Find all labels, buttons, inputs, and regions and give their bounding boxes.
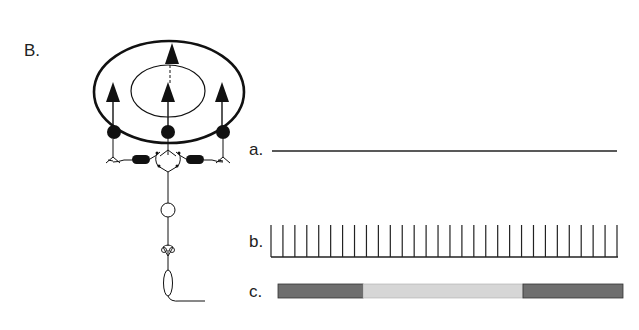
figure-canvas	[0, 0, 639, 330]
photoreceptor-center	[161, 43, 179, 139]
photoreceptor-left	[106, 82, 121, 139]
response-c-segmented-bar	[278, 284, 623, 298]
arrow-up-icon	[161, 82, 175, 102]
bar-segment-dark-left	[278, 284, 363, 298]
bar-segment-dark-right	[523, 284, 623, 298]
bar-segment-light-center	[363, 284, 523, 298]
response-b-spike-train	[271, 225, 618, 257]
bipolar-cell	[156, 150, 181, 246]
horizontal-cell-left	[113, 152, 160, 164]
ganglion-cell	[162, 245, 206, 301]
horizontal-cell-right	[176, 152, 223, 164]
photoreceptor-right	[215, 82, 230, 139]
arrow-up-icon	[106, 82, 120, 102]
arrow-up-icon	[215, 82, 229, 102]
arrow-up-icon	[165, 43, 179, 64]
